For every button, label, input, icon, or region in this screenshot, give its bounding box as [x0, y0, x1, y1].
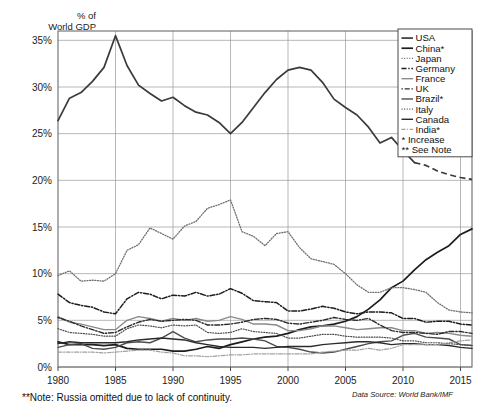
- series-line-japan: [58, 200, 472, 313]
- x-axis-tick-label: 1985: [104, 375, 127, 386]
- x-axis-tick-label: 2000: [277, 375, 300, 386]
- x-axis-tick-label: 1995: [219, 375, 242, 386]
- y-axis-tick-label: 5%: [38, 315, 53, 326]
- series-line-germany: [58, 289, 472, 325]
- series-line-usa: [58, 36, 415, 163]
- world-gdp-line-chart: 0%5%10%15%20%25%30%35%198019851990199520…: [0, 0, 482, 413]
- y-axis-tick-label: 25%: [32, 128, 52, 139]
- x-axis-tick-label: 2005: [334, 375, 357, 386]
- x-axis-tick-label: 1980: [47, 375, 70, 386]
- x-axis-tick-label: 2010: [392, 375, 415, 386]
- y-axis-tick-label: 0%: [38, 362, 53, 373]
- x-axis-tick-label: 1990: [162, 375, 185, 386]
- data-source-label: Data Source: World Bank/IMF: [352, 390, 453, 399]
- legend-label-seenote: ** See Note: [402, 144, 452, 155]
- footnote: **Note: Russia omitted due to lack of co…: [22, 392, 232, 403]
- chart-plot-area: 0%5%10%15%20%25%30%35%198019851990199520…: [0, 0, 482, 413]
- y-axis-tick-label: 20%: [32, 175, 52, 186]
- y-axis-tick-label: 10%: [32, 268, 52, 279]
- x-axis-tick-label: 2015: [449, 375, 472, 386]
- y-axis-tick-label: 30%: [32, 82, 52, 93]
- series-line-usa-projected: [415, 163, 473, 180]
- y-axis-tick-label: 15%: [32, 222, 52, 233]
- y-axis-tick-label: 35%: [32, 35, 52, 46]
- chart-page: % of World GDP 0%5%10%15%20%25%30%35%198…: [0, 0, 482, 413]
